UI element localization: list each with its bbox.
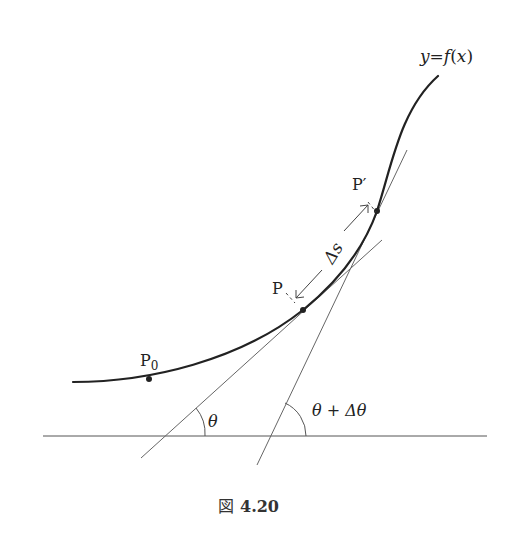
label-p: P	[272, 279, 283, 298]
label-theta-plus-delta-theta: θ + Δθ	[312, 401, 367, 420]
label-delta-s: Δs	[318, 239, 347, 268]
curve-label: y=f(x)	[419, 46, 473, 66]
tangent-angle-diagram: y=f(x) P0 P P′ Δs θ θ + Δθ 図4.20	[0, 0, 518, 552]
point-p	[300, 307, 306, 313]
arrow-to-p-prime	[344, 205, 368, 231]
angle-arc-theta	[196, 408, 205, 436]
point-p0	[146, 376, 152, 382]
tangent-line-at-p	[141, 240, 382, 458]
tick-mark-p	[286, 293, 295, 303]
angle-arc-theta-plus-delta	[285, 403, 306, 436]
label-p0: P0	[140, 351, 158, 373]
curve-y-equals-f-x	[73, 76, 438, 382]
figure-caption: 図4.20	[218, 497, 279, 516]
point-p-prime	[374, 208, 380, 214]
label-p-prime: P′	[352, 175, 367, 194]
arrow-to-p	[296, 270, 322, 298]
label-theta: θ	[208, 412, 218, 431]
